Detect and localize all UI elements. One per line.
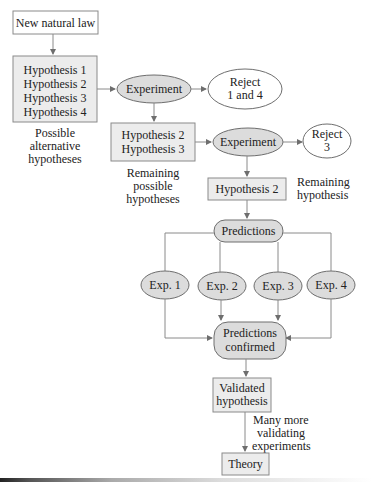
experiment-oval-1: Experiment <box>117 75 191 103</box>
svg-text:hypothesis: hypothesis <box>297 188 349 202</box>
svg-text:3: 3 <box>324 140 330 154</box>
svg-text:1 and 4: 1 and 4 <box>227 88 262 102</box>
svg-text:Hypothesis 2: Hypothesis 2 <box>216 182 279 196</box>
svg-text:experiments: experiments <box>252 439 311 453</box>
svg-text:Predictions: Predictions <box>222 224 276 238</box>
exp-3-oval: Exp. 3 <box>254 272 302 300</box>
svg-text:Hypothesis 2: Hypothesis 2 <box>24 77 87 91</box>
svg-text:Hypothesis 3: Hypothesis 3 <box>24 91 87 105</box>
svg-text:Experiment: Experiment <box>220 135 277 149</box>
svg-text:Remaining: Remaining <box>127 166 180 180</box>
predictions-node: Predictions <box>214 220 283 242</box>
experiment-oval-2: Experiment <box>213 128 283 156</box>
svg-text:Theory: Theory <box>228 457 263 471</box>
remaining-possible-caption: Remaining possible hypotheses <box>126 166 180 206</box>
svg-text:Exp. 3: Exp. 3 <box>262 279 293 293</box>
remaining-hypotheses-box: Hypothesis 2 Hypothesis 3 <box>111 123 195 161</box>
validated-hypothesis-box: Validated hypothesis <box>213 378 271 412</box>
reject-3-oval: Reject 3 <box>303 124 351 158</box>
svg-text:Many more: Many more <box>253 413 309 427</box>
svg-text:Remaining: Remaining <box>297 175 350 189</box>
new-natural-law-box: New natural law <box>13 11 98 34</box>
svg-text:confirmed: confirmed <box>225 340 274 354</box>
svg-text:alternative: alternative <box>30 139 81 153</box>
svg-text:possible: possible <box>133 179 172 193</box>
svg-text:Reject: Reject <box>312 127 343 141</box>
svg-text:Reject: Reject <box>230 75 261 89</box>
many-more-caption: Many more validating experiments <box>252 413 311 453</box>
svg-text:Predictions: Predictions <box>223 326 277 340</box>
svg-text:Exp. 2: Exp. 2 <box>206 279 237 293</box>
exp-2-oval: Exp. 2 <box>198 272 246 300</box>
all-hypotheses-box: Hypothesis 1 Hypothesis 2 Hypothesis 3 H… <box>13 56 97 122</box>
svg-text:Possible: Possible <box>35 126 75 140</box>
svg-text:hypotheses: hypotheses <box>28 152 82 166</box>
svg-text:Hypothesis 1: Hypothesis 1 <box>24 63 87 77</box>
svg-text:Exp. 1: Exp. 1 <box>149 278 180 292</box>
possible-hypotheses-caption: Possible alternative hypotheses <box>28 126 82 166</box>
svg-text:Validated: Validated <box>219 381 264 395</box>
reject-1-and-4-oval: Reject 1 and 4 <box>208 69 282 109</box>
predictions-confirmed-node: Predictions confirmed <box>214 322 286 359</box>
svg-text:hypotheses: hypotheses <box>126 192 180 206</box>
svg-text:Hypothesis 4: Hypothesis 4 <box>24 105 87 119</box>
theory-box: Theory <box>222 453 269 475</box>
bottom-divider-bar <box>0 478 372 482</box>
exp-4-oval: Exp. 4 <box>307 271 355 299</box>
remaining-hypothesis-caption: Remaining hypothesis <box>297 175 350 202</box>
exp-1-oval: Exp. 1 <box>141 271 189 299</box>
svg-text:Hypothesis 2: Hypothesis 2 <box>122 128 185 142</box>
svg-text:hypothesis: hypothesis <box>216 394 268 408</box>
svg-text:validating: validating <box>257 426 305 440</box>
svg-text:Experiment: Experiment <box>126 82 183 96</box>
svg-text:New natural law: New natural law <box>16 16 96 30</box>
final-hypothesis-box: Hypothesis 2 <box>208 178 286 200</box>
svg-text:Exp. 4: Exp. 4 <box>315 278 346 292</box>
svg-text:Hypothesis 3: Hypothesis 3 <box>122 142 185 156</box>
scientific-method-flowchart: New natural law Hypothesis 1 Hypothesis … <box>0 0 372 488</box>
